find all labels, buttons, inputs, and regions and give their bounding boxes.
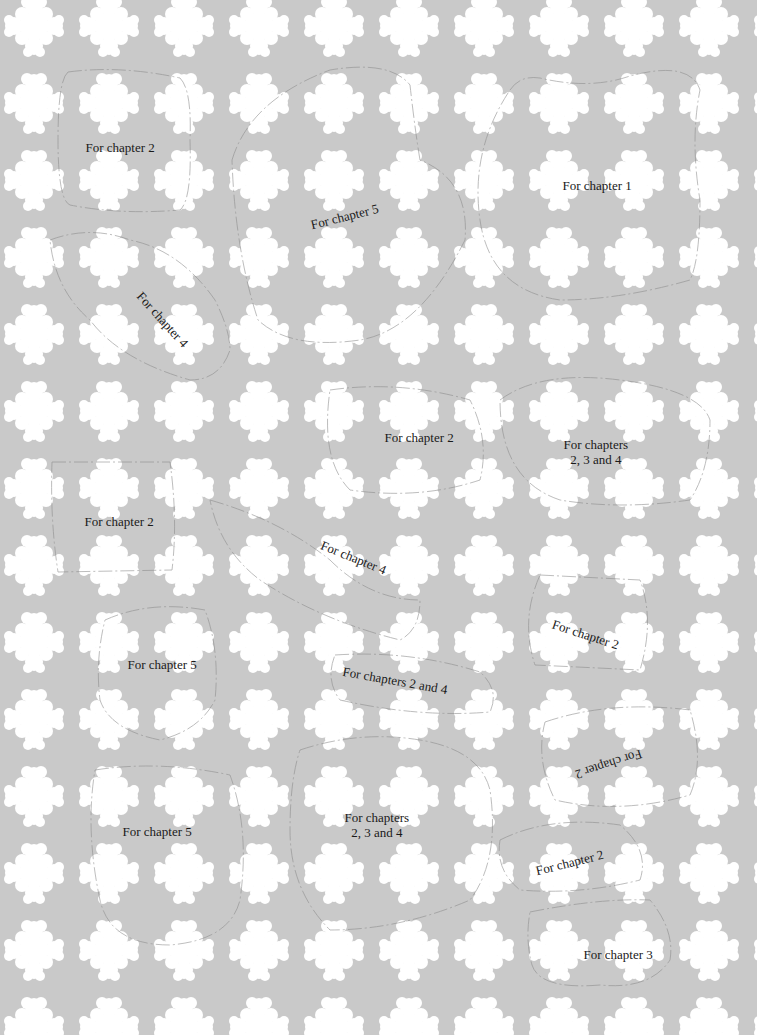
chapter-label: For chapters2, 3 and 4 bbox=[564, 437, 629, 467]
chapter-label: For chapter 2 bbox=[385, 430, 454, 445]
chapter-label: For chapter 5 bbox=[123, 824, 192, 839]
chapter-label: For chapter 2 bbox=[85, 514, 154, 529]
chapter-label: For chapter 2 bbox=[86, 140, 155, 155]
chapter-label: For chapter 3 bbox=[584, 947, 653, 962]
chapter-label: For chapter 1 bbox=[563, 178, 632, 193]
chapter-label: For chapter 5 bbox=[128, 657, 197, 672]
chapter-label: For chapters2, 3 and 4 bbox=[345, 810, 410, 840]
